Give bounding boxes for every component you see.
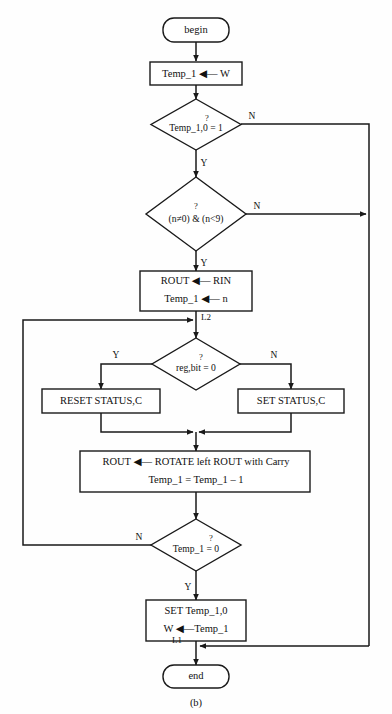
init-rout-line2: Temp_1 ◀— n <box>164 293 228 304</box>
branch-label-range-no: N <box>254 201 261 211</box>
junction-label-l2: L2 <box>201 312 211 322</box>
branch-label-bit0-no: N <box>249 111 256 121</box>
decide-temp-zero-question-mark: ? <box>209 533 213 543</box>
node-init-rout: ROUT ◀— RIN Temp_1 ◀— n <box>140 271 252 311</box>
junction-label-l1: L1 <box>172 635 182 645</box>
node-finish-set: SET Temp_1,0 W ◀—Temp_1 <box>146 600 246 641</box>
branch-label-temp-zero-yes: Y <box>185 582 192 592</box>
decide-temp-zero-label: Temp_1 = 0 <box>173 543 220 554</box>
branch-label-regbit-no: N <box>271 350 278 360</box>
decide-bit0-label: Temp_1,0 = 1 <box>169 122 223 133</box>
node-set-status: SET STATUS,C <box>238 389 344 413</box>
branch-label-temp-zero-no: N <box>136 532 143 542</box>
branch-label-regbit-yes: Y <box>113 350 120 360</box>
node-begin: begin <box>163 18 229 42</box>
branch-label-bit0-yes: Y <box>201 158 208 168</box>
connector-regbit-no-to-set <box>240 364 291 389</box>
finish-set-line2: W ◀—Temp_1 <box>163 623 228 634</box>
figure-caption: (b) <box>190 697 203 709</box>
decide-regbit-question-mark: ? <box>199 352 203 362</box>
node-rotate: ROUT ◀— ROTATE left ROUT with Carry Temp… <box>80 451 310 492</box>
init-rout-line1: ROUT ◀— RIN <box>161 275 232 286</box>
set-status-label: SET STATUS,C <box>257 395 325 406</box>
node-decide-regbit: ? reg,bit = 0 <box>152 338 240 390</box>
load-temp-line1: Temp_1 ◀— W <box>162 68 230 79</box>
connector-regbit-yes-to-reset <box>101 364 152 389</box>
rotate-line1: ROUT ◀— ROTATE left ROUT with Carry <box>102 456 290 467</box>
node-end: end <box>163 665 229 688</box>
branch-label-range-yes: Y <box>201 258 208 268</box>
decide-range-question-mark: ? <box>194 201 198 211</box>
decide-regbit-label: reg,bit = 0 <box>176 362 216 373</box>
reset-status-label: RESET STATUS,C <box>60 395 142 406</box>
decide-range-label: (n≠0) & (n<9) <box>169 213 224 225</box>
connector-reset-to-merge <box>101 413 193 432</box>
flowchart-figure: begin Temp_1 ◀— W ? Temp_1,0 = 1 N Y ? (… <box>0 0 392 714</box>
node-decide-temp-zero: ? Temp_1 = 0 <box>151 519 241 571</box>
node-decide-bit0: ? Temp_1,0 = 1 <box>151 99 241 150</box>
node-decide-range: ? (n≠0) & (n<9) <box>146 177 246 251</box>
connector-set-to-merge <box>199 413 291 432</box>
end-label: end <box>188 670 204 681</box>
finish-set-line1: SET Temp_1,0 <box>164 605 227 616</box>
node-load-temp: Temp_1 ◀— W <box>150 62 242 85</box>
flowchart-canvas: begin Temp_1 ◀— W ? Temp_1,0 = 1 N Y ? (… <box>0 0 392 714</box>
node-reset-status: RESET STATUS,C <box>42 389 160 413</box>
begin-label: begin <box>184 24 208 35</box>
rotate-line2: Temp_1 = Temp_1 – 1 <box>148 474 243 485</box>
